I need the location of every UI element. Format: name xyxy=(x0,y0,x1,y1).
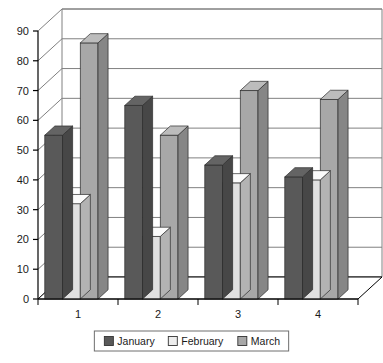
x-axis: 1234 xyxy=(38,299,358,320)
y-axis-tick-label: 50 xyxy=(17,144,29,156)
legend-label-january: January xyxy=(117,335,155,347)
y-axis-tick-label: 90 xyxy=(17,25,29,37)
bar-january-cat-4 xyxy=(285,168,313,299)
legend-label-february: February xyxy=(181,335,224,347)
side-wall-gridline xyxy=(38,9,62,31)
bar-chart: 0102030405060708090 1234 JanuaryFebruary… xyxy=(0,0,383,363)
bar-january-cat-1 xyxy=(45,126,73,299)
legend-label-march: March xyxy=(251,335,280,347)
bar-side-face xyxy=(143,96,153,299)
chart-legend: JanuaryFebruaryMarch xyxy=(94,331,288,351)
bar-side-face xyxy=(303,168,313,299)
x-axis-category-label: 2 xyxy=(155,308,161,320)
bar-side-face xyxy=(320,171,330,299)
legend-swatch-january xyxy=(104,337,113,346)
bar-front-face xyxy=(45,135,63,299)
y-axis-tick-label: 0 xyxy=(23,293,29,305)
bar-side-face xyxy=(178,126,188,299)
x-axis-category-label: 3 xyxy=(235,308,241,320)
side-wall-gridline xyxy=(38,98,62,120)
y-axis-tick-label: 40 xyxy=(17,174,29,186)
bar-side-face xyxy=(338,90,348,299)
chart-canvas: 0102030405060708090 1234 JanuaryFebruary… xyxy=(0,0,383,363)
legend-swatch-february xyxy=(168,337,177,346)
bar-front-face xyxy=(125,105,143,299)
bar-front-face xyxy=(205,165,223,299)
bar-january-cat-2 xyxy=(125,96,153,299)
x-axis-category-label: 1 xyxy=(75,308,81,320)
bar-side-face xyxy=(240,174,250,299)
bar-front-face xyxy=(285,177,303,299)
bar-side-face xyxy=(80,194,90,299)
bar-side-face xyxy=(258,81,268,299)
legend-swatch-march xyxy=(238,337,247,346)
y-axis-tick-label: 30 xyxy=(17,204,29,216)
bar-side-face xyxy=(63,126,73,299)
bar-side-face xyxy=(160,227,170,299)
y-axis-tick-label: 80 xyxy=(17,55,29,67)
y-axis-tick-label: 20 xyxy=(17,233,29,245)
side-wall-gridline xyxy=(38,69,62,91)
bar-side-face xyxy=(223,156,233,299)
y-axis-tick-label: 60 xyxy=(17,114,29,126)
bar-side-face xyxy=(98,34,108,299)
x-axis-category-label: 4 xyxy=(315,308,321,320)
y-axis-tick-label: 70 xyxy=(17,85,29,97)
y-axis-tick-label: 10 xyxy=(17,263,29,275)
bar-january-cat-3 xyxy=(205,156,233,299)
y-axis: 0102030405060708090 xyxy=(17,25,38,305)
side-wall-gridline xyxy=(38,39,62,61)
